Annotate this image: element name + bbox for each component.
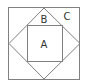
label-a: A [41, 39, 48, 50]
label-b: B [41, 14, 48, 25]
label-c: C [64, 11, 71, 22]
nested-squares-diagram: A B C [0, 0, 86, 82]
